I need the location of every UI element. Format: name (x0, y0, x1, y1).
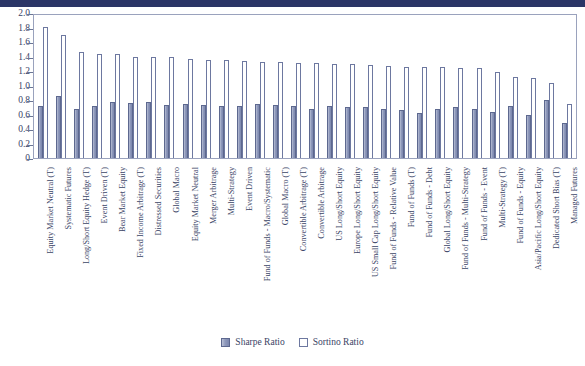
bar-sortino-ratio (513, 77, 518, 158)
top-banner-bar (0, 0, 585, 7)
bar-sortino-ratio (79, 52, 84, 158)
bar-sortino-ratio (206, 60, 211, 158)
bar-group (142, 15, 160, 158)
bar-group (160, 15, 178, 158)
bar-group (395, 15, 413, 158)
y-axis-tick-label: 1.6 (2, 38, 30, 48)
bar-group (179, 15, 197, 158)
bar-sortino-ratio (242, 61, 247, 158)
y-axis-tick-labels: 2.01.81.61.41.21.00.80.60.40.20 (0, 7, 30, 159)
bar-group (305, 15, 323, 158)
x-axis-label-cell: Fund of Funds - Macro/Systematic (251, 167, 269, 317)
x-axis-label-cell: Convertible Arbitrage (305, 167, 323, 317)
x-axis-label-cell: Fund of Funds - Equity (504, 167, 522, 317)
x-axis-label-cell: US Small Cap Long/Short Equity (359, 167, 377, 317)
bar-sortino-ratio (296, 63, 301, 158)
y-axis-tick-label: 1.4 (2, 53, 30, 63)
bar-sortino-ratio (115, 54, 120, 158)
x-axis-label-cell: Fund of Funds - Multi-Strategy (449, 167, 467, 317)
bar-sortino-ratio (368, 65, 373, 158)
legend-swatch-sharpe-ratio (221, 338, 230, 347)
x-axis-label-cell: Fund of Funds (T) (395, 167, 413, 317)
bar-sortino-ratio (169, 57, 174, 158)
bar-sortino-ratio (495, 72, 500, 158)
bar-groups-container (34, 15, 576, 158)
bar-sortino-ratio (458, 68, 463, 158)
x-axis-label-cell: Systematic Futures (52, 167, 70, 317)
x-axis-label-cell: Global Long/Short Equity (431, 167, 449, 317)
bar-sortino-ratio (61, 35, 66, 158)
legend-item-sharpe-ratio: Sharpe Ratio (221, 337, 284, 347)
bar-sortino-ratio (97, 54, 102, 158)
bar-group (70, 15, 88, 158)
bar-sortino-ratio (133, 57, 138, 159)
x-axis-label-cell: US Long/Short Equity (323, 167, 341, 317)
bar-sortino-ratio (549, 83, 554, 158)
bar-group (251, 15, 269, 158)
bar-group (468, 15, 486, 158)
y-axis-tick-label: 1.8 (2, 24, 30, 34)
x-axis-label-cell: Convertible Arbitrage (T) (287, 167, 305, 317)
x-axis-label-cell: Managed Futures (558, 167, 576, 317)
x-axis-label-cell: Global Macro (160, 167, 178, 317)
bar-sortino-ratio (404, 67, 409, 158)
bar-group (504, 15, 522, 158)
bar-sortino-ratio (43, 27, 48, 158)
x-axis-label-cell: Equity Market Neutral (179, 167, 197, 317)
bar-sortino-ratio (314, 63, 319, 158)
x-axis-label-cell: Event Driven (T) (88, 167, 106, 317)
bar-sortino-ratio (151, 57, 156, 159)
x-axis-category-label: Managed Futures (571, 167, 579, 224)
chart-legend: Sharpe Ratio Sortino Ratio (0, 337, 585, 347)
x-axis-label-cell: Merger Arbitrage (197, 167, 215, 317)
bar-group (88, 15, 106, 158)
bar-sortino-ratio (422, 67, 427, 158)
chart-figure: 2.01.81.61.41.21.00.80.60.40.20 Equity M… (0, 7, 585, 366)
bar-sortino-ratio (531, 78, 536, 158)
bar-group (377, 15, 395, 158)
x-axis-label-cell: Multi-Strategy (T) (486, 167, 504, 317)
x-axis-label-cell: Fixed Income Arbitrage (T) (124, 167, 142, 317)
bar-group (215, 15, 233, 158)
y-axis-tick-label: 0 (2, 154, 30, 164)
bar-sortino-ratio (224, 60, 229, 158)
bar-group (124, 15, 142, 158)
y-axis-tick-label: 1.0 (2, 82, 30, 92)
x-axis-label-cell: Europe Long/Short Equity (341, 167, 359, 317)
x-axis-category-labels: Equity Market Neutral (T)Systematic Futu… (34, 167, 576, 317)
bar-group (52, 15, 70, 158)
y-axis-tick-label: 2.0 (2, 9, 30, 19)
bar-group (323, 15, 341, 158)
y-axis-tick-label: 1.2 (2, 67, 30, 77)
bar-sortino-ratio (477, 68, 482, 158)
x-axis-label-cell: Multi-Strategy (215, 167, 233, 317)
y-axis-tick-label: 0.4 (2, 125, 30, 135)
bar-group (341, 15, 359, 158)
x-axis-label-cell: Distressed Securities (142, 167, 160, 317)
x-axis-label-cell: Bear Market Equity (106, 167, 124, 317)
bar-group (269, 15, 287, 158)
x-axis-label-cell: Asia/Pacific Long/Short Equity (522, 167, 540, 317)
legend-label-sortino-ratio: Sortino Ratio (313, 337, 364, 347)
x-axis-label-cell: Equity Market Neutral (T) (34, 167, 52, 317)
bar-sortino-ratio (440, 67, 445, 158)
bar-group (486, 15, 504, 158)
bar-sortino-ratio (386, 66, 391, 158)
bar-sortino-ratio (350, 64, 355, 158)
x-axis-label-cell: Event Driven (233, 167, 251, 317)
y-axis-tick-label: 0.2 (2, 140, 30, 150)
bar-group (431, 15, 449, 158)
legend-label-sharpe-ratio: Sharpe Ratio (235, 337, 284, 347)
bar-sortino-ratio (332, 64, 337, 158)
bar-group (287, 15, 305, 158)
x-axis-label-cell: Long/Short Equity Hedge (T) (70, 167, 88, 317)
x-axis-label-cell: Fund of Funds - Debt (413, 167, 431, 317)
bar-group (558, 15, 576, 158)
bar-group (540, 15, 558, 158)
bar-group (522, 15, 540, 158)
bar-group (413, 15, 431, 158)
bar-sortino-ratio (278, 62, 283, 158)
y-axis-tick-label: 0.8 (2, 96, 30, 106)
bar-sortino-ratio (567, 104, 572, 158)
bar-group (359, 15, 377, 158)
